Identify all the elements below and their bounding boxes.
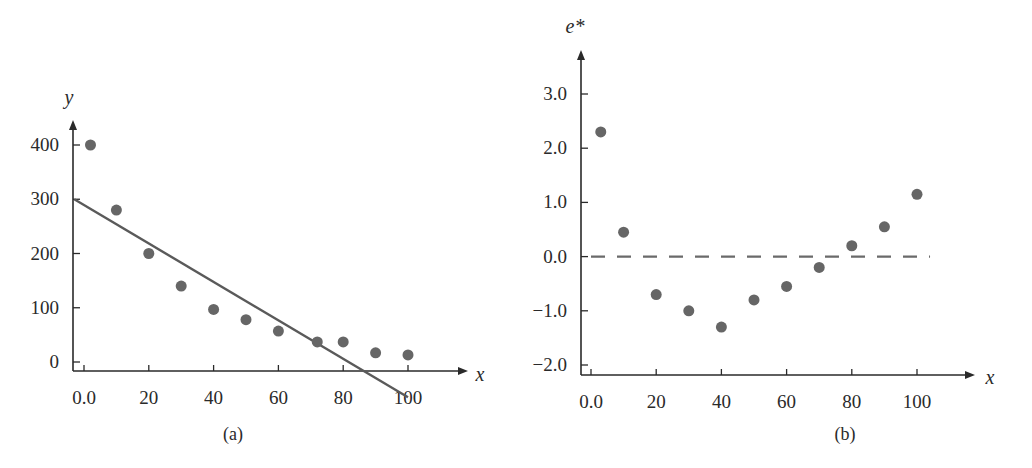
x-tick-label: 60 [269,387,288,408]
data-point [846,240,857,251]
y-tick-label: 200 [31,243,60,264]
x-tick-label: 100 [903,391,932,412]
y-tick-label: 100 [31,297,60,318]
y-tick-label: −2.0 [533,354,567,375]
panel-a-residual-fit-plot: 0.0204060801000100200300400yx(a) [31,86,485,445]
y-axis-label: y [63,86,74,109]
x-tick-label: 40 [712,391,731,412]
x-tick-label: 80 [842,391,861,412]
x-tick-label: 40 [204,387,223,408]
x-axis-label: x [985,366,995,388]
x-tick-label: 20 [139,387,158,408]
data-point [651,289,662,300]
data-point [814,262,825,273]
x-axis-arrow-icon [458,367,468,375]
data-point [241,314,252,325]
data-point [143,248,154,259]
data-point [683,305,694,316]
figure: 0.0204060801000100200300400yx(a) 0.02040… [0,0,1032,468]
data-point [879,221,890,232]
data-point [618,227,629,238]
y-tick-label: −1.0 [533,300,567,321]
x-tick-label: 60 [777,391,796,412]
panel-b-standardized-residual-plot: 0.020406080100−2.0−1.00.01.02.03.0e*x(b) [533,15,995,445]
x-axis-arrow-icon [965,371,975,379]
data-point [176,281,187,292]
x-tick-label: 0.0 [72,387,96,408]
x-tick-label: 20 [647,391,666,412]
panel-caption: (a) [223,424,243,445]
y-axis-arrow-icon [69,120,77,130]
x-axis-label: x [475,363,485,385]
x-tick-label: 0.0 [579,391,603,412]
data-point [312,336,323,347]
y-tick-label: 400 [31,134,60,155]
data-point [273,326,284,337]
fitted-regression-line [74,199,408,397]
data-point [749,294,760,305]
y-tick-label: 0 [50,351,60,372]
data-point [716,322,727,333]
data-point [781,281,792,292]
y-tick-label: 1.0 [543,191,567,212]
y-tick-label: 2.0 [543,137,567,158]
y-tick-label: 300 [31,188,60,209]
data-point [595,126,606,137]
x-tick-label: 80 [334,387,353,408]
data-point [111,205,122,216]
data-point [208,304,219,315]
y-tick-label: 0.0 [543,246,567,267]
y-axis-arrow-icon [577,50,585,60]
data-point [912,189,923,200]
y-axis-label: e* [566,15,585,37]
data-point [85,140,96,151]
data-point [370,347,381,358]
data-point [403,349,414,360]
panel-caption: (b) [835,424,856,445]
data-point [338,336,349,347]
y-tick-label: 3.0 [543,83,567,104]
